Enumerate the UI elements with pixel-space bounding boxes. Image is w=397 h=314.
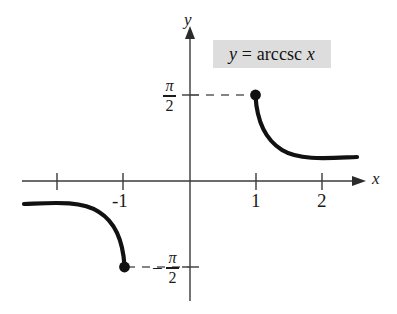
equation-lhs: y [229, 44, 237, 64]
plot-canvas [0, 0, 397, 314]
x-tick-label-1: 1 [251, 191, 261, 210]
pi-numerator: π [163, 78, 175, 94]
arccsc-graph-figure: y x -1 1 2 π 2 − π 2 y = arccsc x [0, 0, 397, 314]
y-tick-label-neg-pi-over-2: π 2 [166, 250, 179, 286]
curve-right-branch [256, 96, 358, 158]
negative-sign-pi-over-2: − [152, 258, 163, 280]
y-tick-label-pi-over-2: π 2 [163, 78, 176, 114]
equation-callout-box: y = arccsc x [213, 40, 331, 68]
x-tick-label-minus1: -1 [112, 191, 128, 210]
pi-numerator: π [166, 250, 178, 266]
x-axis-arrowhead [352, 176, 366, 186]
x-axis-label: x [372, 170, 380, 187]
endpoint-dot-upper [250, 90, 261, 101]
two-denominator: 2 [164, 98, 176, 114]
equation-text: y = arccsc x [229, 44, 315, 65]
curve-left-branch [24, 203, 125, 266]
equation-function: arccsc [257, 44, 303, 64]
two-denominator: 2 [167, 270, 179, 286]
endpoint-dot-lower [119, 262, 130, 273]
equation-variable: x [307, 44, 315, 64]
x-tick-label-2: 2 [317, 191, 327, 210]
equation-equals: = [242, 44, 252, 64]
y-axis-label: y [184, 11, 192, 28]
